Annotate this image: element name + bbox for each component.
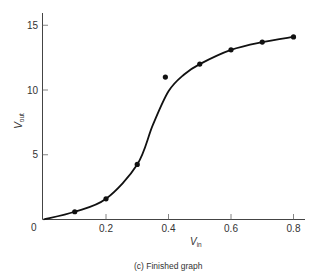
data-point bbox=[135, 162, 140, 167]
origin-label: 0 bbox=[31, 222, 37, 233]
y-axis-label: Vout bbox=[13, 113, 25, 129]
data-point bbox=[291, 34, 296, 39]
data-points bbox=[72, 34, 296, 214]
y-tick-label: 15 bbox=[27, 20, 39, 31]
x-tick-label: 0.2 bbox=[99, 223, 113, 234]
x-axis-label-sub: in bbox=[197, 241, 202, 248]
data-point bbox=[260, 39, 265, 44]
svg-text:Vout: Vout bbox=[13, 113, 25, 129]
fit-curve bbox=[44, 37, 294, 220]
data-point bbox=[103, 196, 108, 201]
data-point bbox=[72, 209, 77, 214]
x-ticks: 0.20.40.60.8 bbox=[99, 214, 301, 234]
y-axis-label-sub: out bbox=[18, 113, 25, 122]
data-point bbox=[197, 62, 202, 67]
data-point bbox=[163, 74, 168, 79]
y-ticks: 51015 bbox=[27, 20, 48, 161]
x-tick-label: 0.6 bbox=[224, 223, 238, 234]
data-point bbox=[228, 47, 233, 52]
chart: 51015 0.20.40.60.8 0 Vout Vin (c) Finish… bbox=[0, 0, 317, 274]
x-axis-label: Vin bbox=[190, 236, 202, 248]
y-tick-label: 10 bbox=[27, 85, 39, 96]
x-tick-label: 0.4 bbox=[162, 223, 176, 234]
y-tick-label: 5 bbox=[32, 149, 38, 160]
figure-caption: (c) Finished graph bbox=[134, 261, 203, 271]
x-tick-label: 0.8 bbox=[287, 223, 301, 234]
